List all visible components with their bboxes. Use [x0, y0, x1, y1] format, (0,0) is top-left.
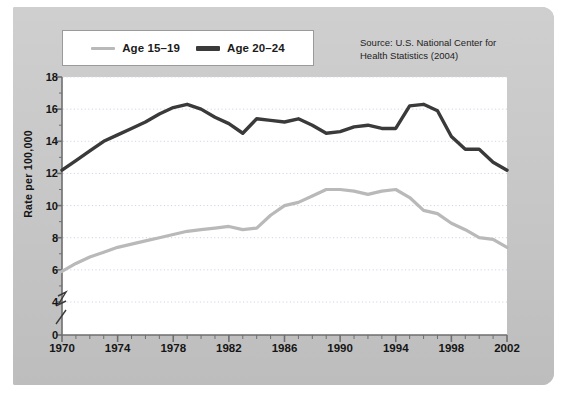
- y-axis-title: Rate per 100,000: [22, 104, 34, 244]
- x-tick-label: 1998: [439, 342, 465, 354]
- legend-swatch-icon-age-15-19: [91, 47, 115, 50]
- y-tick-label: 18: [38, 71, 58, 83]
- chart-screenshot: 04681012141618 1970197419781982198619901…: [0, 0, 569, 399]
- y-tick-label: 10: [38, 200, 58, 212]
- source-note: Source: U.S. National Center for Health …: [360, 36, 535, 62]
- x-tick-label: 2002: [494, 342, 520, 354]
- x-tick-label: 1970: [49, 342, 75, 354]
- x-tick-label: 1982: [216, 342, 242, 354]
- legend-label-age-15-19: Age 15–19: [122, 42, 180, 54]
- legend-item-age-15-19[interactable]: Age 15–19: [91, 42, 180, 54]
- x-tick-label: 1986: [272, 342, 298, 354]
- legend-label-age-20-24: Age 20–24: [227, 42, 285, 54]
- x-tick-label: 1978: [160, 342, 186, 354]
- plot-area-background: [62, 77, 507, 335]
- source-note-line-1: Source: U.S. National Center for: [360, 36, 535, 49]
- legend-swatch-icon-age-20-24: [196, 46, 220, 51]
- legend-item-age-20-24[interactable]: Age 20–24: [196, 42, 285, 54]
- y-tick-label: 0: [38, 329, 58, 341]
- y-axis-tick-labels: 04681012141618: [36, 0, 58, 399]
- y-tick-label: 8: [38, 232, 58, 244]
- y-tick-label: 4: [38, 296, 58, 308]
- y-tick-label: 6: [38, 264, 58, 276]
- source-note-line-2: Health Statistics (2004): [360, 49, 535, 62]
- x-tick-label: 1974: [105, 342, 131, 354]
- y-tick-label: 14: [38, 135, 58, 147]
- legend: Age 15–19 Age 20–24: [62, 30, 314, 66]
- x-tick-label: 1990: [327, 342, 353, 354]
- y-tick-label: 16: [38, 103, 58, 115]
- y-tick-label: 12: [38, 167, 58, 179]
- x-tick-label: 1994: [383, 342, 409, 354]
